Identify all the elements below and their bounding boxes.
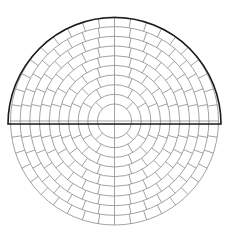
grid-spoke xyxy=(179,60,186,66)
grid-spoke xyxy=(98,38,100,47)
grid-spoke xyxy=(128,155,132,164)
grid-spoke xyxy=(22,136,32,138)
grid-spoke xyxy=(184,150,193,154)
grid-spoke xyxy=(143,32,146,41)
grid-spoke xyxy=(68,62,74,70)
grid-spoke xyxy=(143,43,147,52)
grid-spoke xyxy=(170,37,176,45)
grid-spoke xyxy=(208,105,218,107)
grid-spoke xyxy=(188,136,197,138)
grid-spoke xyxy=(157,28,161,37)
grid-spoke xyxy=(82,211,85,220)
grid-spoke xyxy=(168,135,177,138)
grid-spoke xyxy=(129,195,131,204)
grid-spoke xyxy=(98,175,101,184)
grid-spoke xyxy=(98,28,100,38)
grid-spoke xyxy=(69,88,77,94)
grid-spoke xyxy=(68,75,75,82)
grid-spoke xyxy=(179,175,186,181)
grid-spoke xyxy=(129,165,132,174)
polar-grid-diagram xyxy=(0,0,227,232)
grid-spoke xyxy=(83,134,91,139)
grid-spoke xyxy=(56,74,64,80)
grid-spoke xyxy=(82,190,86,199)
grid-spoke xyxy=(127,102,134,109)
grid-spoke xyxy=(53,197,59,205)
grid-spoke xyxy=(129,18,131,28)
grid-spoke xyxy=(16,89,25,92)
grid-spoke xyxy=(51,135,60,138)
grid-spoke xyxy=(82,201,85,210)
grid-spoke xyxy=(41,104,50,106)
grid-spoke xyxy=(47,88,56,92)
grid-spoke xyxy=(129,214,131,224)
grid-spoke xyxy=(148,135,157,139)
grid-spoke xyxy=(12,136,22,138)
grid-spoke xyxy=(168,174,175,181)
grid-spoke xyxy=(72,135,81,139)
grid-spoke xyxy=(148,103,157,107)
grid-spoke xyxy=(82,22,85,31)
grid-spoke xyxy=(177,74,185,79)
grid-spoke xyxy=(54,49,60,56)
grid-spoke xyxy=(97,79,101,88)
grid-spoke xyxy=(166,162,174,168)
grid-spoke xyxy=(68,172,74,180)
grid-spoke xyxy=(82,147,89,154)
grid-spoke xyxy=(129,175,132,184)
grid-spoke xyxy=(181,47,188,54)
grid-spoke xyxy=(82,76,88,84)
grid-spoke xyxy=(173,88,182,92)
grid-spoke xyxy=(198,105,208,107)
grid-spoke xyxy=(129,38,131,47)
grid-spoke xyxy=(96,90,101,98)
grid-spoke xyxy=(26,89,35,92)
grid-spoke xyxy=(30,60,38,66)
grid-spoke xyxy=(67,183,72,191)
grid-spoke xyxy=(54,186,60,193)
grid-spoke xyxy=(144,211,147,220)
grid-spoke xyxy=(156,183,161,191)
grid-spoke xyxy=(173,149,182,153)
grid-spoke xyxy=(188,74,196,79)
grid-spoke xyxy=(178,136,187,138)
grid-spoke xyxy=(169,186,175,193)
grid-spoke xyxy=(194,89,203,92)
grid-spoke xyxy=(128,144,133,152)
grid-spoke xyxy=(36,150,45,154)
grid-spoke xyxy=(83,103,91,108)
grid-spoke xyxy=(158,104,167,107)
grid-spoke xyxy=(98,48,100,57)
grid-spoke xyxy=(163,88,171,93)
grid-spoke xyxy=(208,136,218,138)
grid-spoke xyxy=(82,32,85,41)
grid-spoke xyxy=(168,61,175,68)
grid-spoke xyxy=(157,194,162,202)
grid-spoke xyxy=(129,48,131,57)
grid-spoke xyxy=(67,194,72,202)
grid-spoke xyxy=(138,134,146,139)
grid-spoke xyxy=(97,165,100,174)
grid-spoke xyxy=(82,180,86,189)
grid-spoke xyxy=(142,64,147,72)
grid-spoke xyxy=(41,47,48,54)
grid-spoke xyxy=(55,174,62,181)
grid-spoke xyxy=(82,158,88,166)
grid-spoke xyxy=(154,75,161,82)
grid-spoke xyxy=(188,163,196,168)
grid-spoke xyxy=(42,60,49,66)
grid-spoke xyxy=(98,214,100,224)
grid-spoke xyxy=(58,149,66,154)
grid-spoke xyxy=(157,39,162,47)
grid-spoke xyxy=(67,28,71,37)
grid-spoke xyxy=(31,136,40,138)
grid-spoke xyxy=(82,64,87,72)
grid-spoke xyxy=(152,88,160,94)
grid-spoke xyxy=(158,135,167,138)
grid-spoke xyxy=(67,39,72,47)
grid-spoke xyxy=(97,68,100,77)
grid-spoke xyxy=(72,103,81,107)
grid-spoke xyxy=(143,53,147,62)
grid-spoke xyxy=(44,74,52,79)
grid-spoke xyxy=(169,49,175,56)
